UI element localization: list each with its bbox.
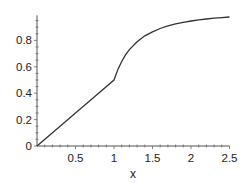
plot-area: 00.20.40.60.8 0.511.522.5 x: [16, 15, 238, 181]
y-tick-label: 0.2: [16, 114, 32, 126]
y-minor-ticks: [34, 21, 39, 146]
x-tick-label: 1: [111, 152, 117, 164]
x-axis-label: x: [130, 167, 136, 181]
y-tick-label: 0.6: [16, 61, 32, 73]
x-tick-label: 0.5: [68, 152, 84, 164]
data-line: [37, 17, 230, 146]
x-tick-label: 1.5: [145, 152, 161, 164]
x-tick-labels: 0.511.522.5: [68, 152, 238, 164]
y-tick-labels: 00.20.40.60.8: [16, 34, 33, 152]
y-tick-label: 0.8: [16, 34, 32, 46]
x-minor-ticks: [45, 145, 230, 150]
y-tick-label: 0.4: [16, 87, 33, 99]
x-tick-label: 2: [188, 152, 194, 164]
line-chart: 00.20.40.60.8 0.511.522.5 x: [0, 0, 252, 183]
y-tick-label: 0: [26, 140, 32, 152]
x-tick-label: 2.5: [222, 152, 238, 164]
